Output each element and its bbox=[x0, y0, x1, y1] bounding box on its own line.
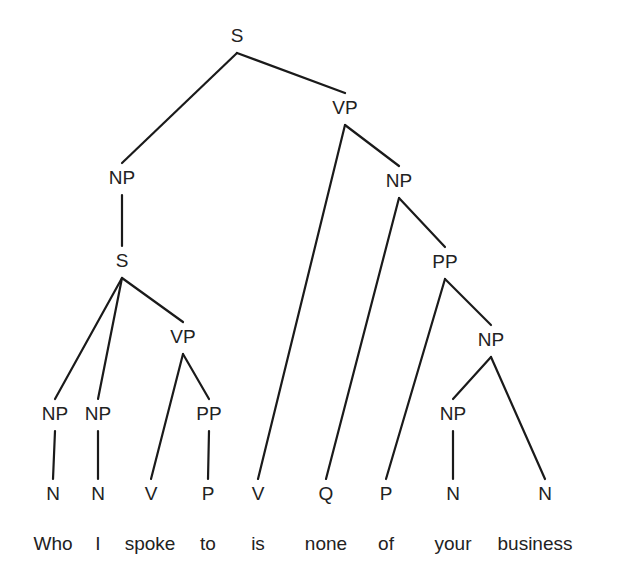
node-label-pp: PP bbox=[196, 403, 221, 424]
node-label-pp: PP bbox=[432, 251, 457, 272]
node-label-s: S bbox=[116, 250, 129, 271]
sentence-word: none bbox=[305, 533, 347, 554]
node-label-np: NP bbox=[440, 403, 466, 424]
sentence-word: of bbox=[378, 533, 395, 554]
tree-edge-s1-np2 bbox=[55, 278, 122, 399]
tree-edge-np4-t6 bbox=[326, 198, 399, 479]
node-label-n: N bbox=[91, 483, 105, 504]
node-label-v: V bbox=[145, 483, 158, 504]
tree-edge-vp1-np4 bbox=[345, 125, 399, 166]
tree-edge-vp2-pp1 bbox=[183, 354, 209, 399]
node-label-np: NP bbox=[85, 403, 111, 424]
sentence-word: your bbox=[435, 533, 473, 554]
node-label-vp: VP bbox=[332, 97, 357, 118]
tree-edge-pp2-np5 bbox=[445, 279, 491, 325]
sentence-word: business bbox=[498, 533, 573, 554]
sentence-word: I bbox=[95, 533, 100, 554]
node-label-np: NP bbox=[109, 167, 135, 188]
node-label-np: NP bbox=[478, 329, 504, 350]
sentence-word: is bbox=[251, 533, 265, 554]
node-label-v: V bbox=[252, 483, 265, 504]
tree-edge-np5-t9 bbox=[491, 357, 545, 479]
node-label-np: NP bbox=[42, 403, 68, 424]
node-label-n: N bbox=[46, 483, 60, 504]
tree-edge-s1-np3 bbox=[98, 278, 122, 399]
tree-edge-pp2-t7 bbox=[386, 279, 445, 479]
tree-edge-np5-np6 bbox=[453, 357, 491, 399]
tree-edge-s0-vp1 bbox=[237, 53, 345, 93]
sentence-word: to bbox=[200, 533, 216, 554]
tree-node-labels: SNPVPSNPNPNPVPPPPPNPNPNNVPVQPNN bbox=[42, 25, 552, 504]
node-label-n: N bbox=[446, 483, 460, 504]
tree-edge-vp2-t3 bbox=[151, 354, 183, 479]
node-label-q: Q bbox=[319, 483, 334, 504]
tree-edge-s1-vp2 bbox=[122, 278, 183, 322]
node-label-n: N bbox=[538, 483, 552, 504]
tree-edge-np4-pp2 bbox=[399, 198, 445, 247]
syntax-tree-diagram: SNPVPSNPNPNPVPPPPPNPNPNNVPVQPNN WhoIspok… bbox=[0, 0, 625, 588]
node-label-p: P bbox=[202, 483, 215, 504]
node-label-vp: VP bbox=[170, 326, 195, 347]
tree-edge-np2-t1 bbox=[53, 431, 55, 479]
sentence-word: spoke bbox=[125, 533, 176, 554]
node-label-s: S bbox=[231, 25, 244, 46]
node-label-p: P bbox=[380, 483, 393, 504]
sentence-word: Who bbox=[33, 533, 72, 554]
sentence-words: WhoIspoketoisnoneofyourbusiness bbox=[33, 533, 572, 554]
tree-edge-vp1-t5 bbox=[258, 125, 345, 479]
tree-edge-pp1-t4 bbox=[208, 431, 209, 479]
tree-edge-s0-np1 bbox=[122, 53, 237, 163]
node-label-np: NP bbox=[386, 170, 412, 191]
